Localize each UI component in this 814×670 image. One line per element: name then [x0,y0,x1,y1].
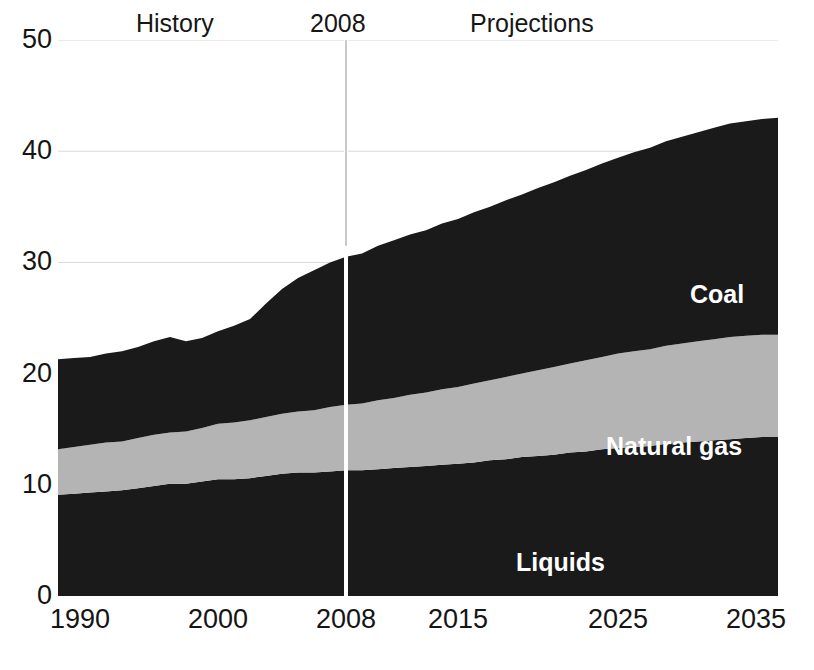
x-axis-tick-label: 2000 [188,604,248,634]
series-label-coal: Coal [690,280,744,308]
x-axis-tick-label: 1990 [50,604,110,634]
x-axis-tick-label: 2008 [316,604,376,634]
x-axis-tick-label: 2015 [428,604,488,634]
area-series-group [58,118,778,596]
x-axis-tick-label: 2035 [726,604,786,634]
series-label-natural-gas: Natural gas [606,432,742,460]
energy-consumption-area-chart: History 2008 Projections 01020304050 199… [0,0,814,670]
plot-area: Coal Natural gas Liquids [58,40,778,596]
series-label-liquids: Liquids [516,548,605,576]
stacked-area-svg [58,40,778,596]
x-axis-tick-label: 2025 [588,604,648,634]
